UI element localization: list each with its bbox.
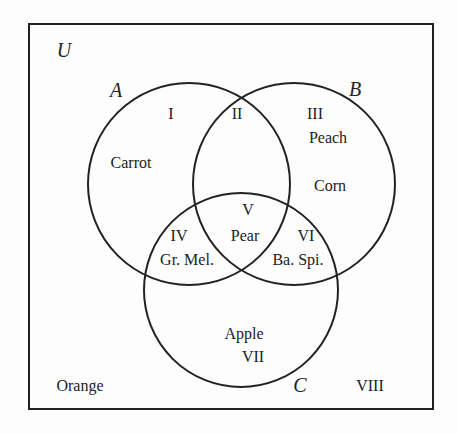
region-iii-item-corn: Corn <box>314 178 346 194</box>
set-a-label: A <box>110 80 122 100</box>
region-iv-item: Gr. Mel. <box>160 252 214 268</box>
region-iii-numeral: III <box>307 106 323 122</box>
region-vi-item: Ba. Spi. <box>272 252 323 268</box>
region-vi-numeral: VI <box>298 228 315 244</box>
region-i-numeral: I <box>168 106 173 122</box>
region-vii-numeral: VII <box>242 349 264 365</box>
region-i-item: Carrot <box>111 155 152 171</box>
venn-diagram-canvas <box>0 0 458 434</box>
set-c-label: C <box>293 375 306 395</box>
region-viii-item: Orange <box>56 378 103 394</box>
universe-frame <box>29 24 433 409</box>
universe-label: U <box>57 40 71 60</box>
region-vii-item: Apple <box>224 326 263 342</box>
region-viii-numeral: VIII <box>356 378 384 394</box>
set-b-label: B <box>349 79 361 99</box>
region-iv-numeral: IV <box>171 228 188 244</box>
region-v-item: Pear <box>231 228 259 244</box>
region-ii-numeral: II <box>232 106 243 122</box>
region-iii-item-peach: Peach <box>309 130 347 146</box>
region-v-numeral: V <box>242 202 254 218</box>
